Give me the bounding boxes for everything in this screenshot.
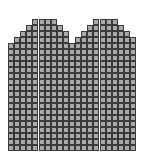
grid-cell: [130, 145, 136, 151]
